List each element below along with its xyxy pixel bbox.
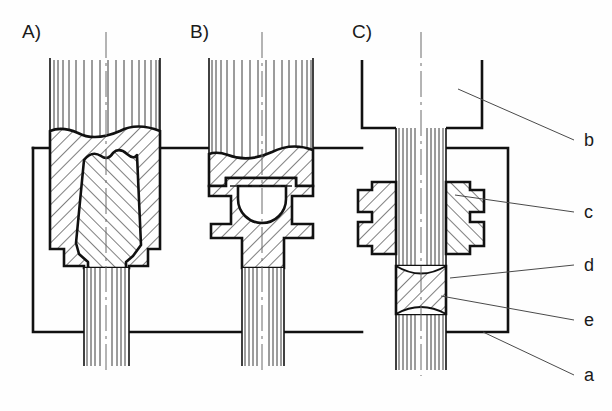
callout-label-e: e xyxy=(584,310,594,330)
panel-b-stem xyxy=(242,268,284,366)
panel-label-a: A) xyxy=(22,21,41,42)
callout-label-b: b xyxy=(584,130,594,150)
forging-diagram: A) xyxy=(0,0,612,411)
callout-label-d: d xyxy=(584,255,594,275)
callout-label-a: a xyxy=(584,365,595,385)
panel-label-b: B) xyxy=(190,21,209,42)
figure-root: A) xyxy=(0,0,612,411)
panel-a-preform xyxy=(76,150,141,268)
callout-label-c: c xyxy=(584,202,593,222)
panel-label-c: C) xyxy=(352,21,372,42)
